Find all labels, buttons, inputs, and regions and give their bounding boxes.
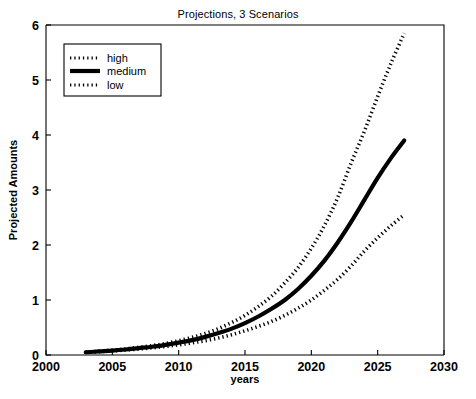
y-axis-title: Projected Amounts [7,140,19,240]
x-tick-label: 2015 [231,360,259,374]
y-tick-label: 5 [32,74,39,88]
legend-label-high: high [107,52,128,64]
x-tick-label: 2030 [430,360,458,374]
x-tick-label: 2005 [98,360,126,374]
y-tick-label: 0 [32,349,39,363]
x-tick-label: 2020 [297,360,325,374]
legend[interactable]: high medium low [64,44,161,96]
y-tick-label: 4 [32,129,39,143]
figure-canvas: Projections, 3 Scenarios 200020052010201… [0,0,476,399]
x-axis-title: years [231,373,260,385]
x-tick-label: 2010 [165,360,193,374]
x-tick-label: 2025 [364,360,392,374]
y-tick-label: 2 [32,239,39,253]
y-axis-tick-labels: 0123456 [32,19,39,363]
y-tick-label: 6 [32,19,39,33]
x-axis-tick-labels: 2000200520102015202020252030 [32,360,458,374]
legend-label-low: low [107,79,124,91]
y-tick-label: 1 [32,294,39,308]
series-line-medium [86,141,404,353]
legend-label-medium: medium [107,65,146,77]
chart-plot-area: 2000200520102015202020252030 0123456 yea… [0,0,476,399]
y-axis-ticks [46,25,51,355]
series-line-low [86,215,404,353]
y-tick-label: 3 [32,184,39,198]
